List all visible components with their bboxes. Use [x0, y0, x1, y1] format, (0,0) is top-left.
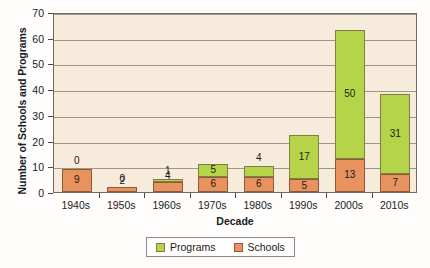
bar-2010s[interactable]: 317: [380, 94, 410, 192]
bar-1950s[interactable]: 02: [107, 187, 137, 192]
bar-label-schools: 9: [74, 175, 80, 185]
y-tick-label: 10: [0, 161, 44, 173]
bar-label-programs: 31: [390, 129, 401, 139]
chart-figure: Number of Schools and Programs 010203040…: [0, 0, 430, 268]
x-axis-title: Decade: [53, 215, 417, 227]
bar-label-programs: 5: [210, 165, 216, 175]
plot-area: 09021456461755013317: [53, 13, 417, 193]
x-tick-mark: [99, 193, 100, 198]
legend-label-schools: Schools: [248, 241, 285, 253]
bar-segment-programs[interactable]: 17: [289, 135, 319, 179]
y-tick-label: 40: [0, 84, 44, 96]
bar-segment-schools[interactable]: 7: [380, 174, 410, 192]
legend-item-schools[interactable]: Schools: [234, 241, 285, 253]
bar-segment-schools[interactable]: 9: [62, 169, 92, 192]
bar-label-schools: 6: [256, 179, 262, 189]
y-tick-label: 20: [0, 136, 44, 148]
bar-label-schools: 13: [344, 170, 355, 180]
bar-label-schools: 6: [210, 179, 216, 189]
bar-segment-programs[interactable]: 31: [380, 94, 410, 174]
schools-swatch-icon: [234, 243, 243, 252]
chart-legend: Programs Schools: [146, 237, 295, 257]
legend-label-programs: Programs: [170, 241, 216, 253]
bar-1960s[interactable]: 14: [153, 179, 183, 192]
x-tick-mark: [235, 193, 236, 198]
x-tick-label-2010s: 2010s: [367, 199, 421, 211]
y-tick-mark: [48, 193, 53, 194]
bar-1970s[interactable]: 56: [198, 164, 228, 192]
x-tick-mark: [190, 193, 191, 198]
x-tick-mark: [372, 193, 373, 198]
bar-label-programs: 50: [344, 89, 355, 99]
bar-1990s[interactable]: 175: [289, 135, 319, 192]
bar-segment-schools[interactable]: 6: [244, 177, 274, 192]
y-tick-label: 50: [0, 58, 44, 70]
bar-label-programs: 4: [244, 153, 274, 163]
x-tick-mark: [144, 193, 145, 198]
bar-segment-schools[interactable]: 13: [335, 159, 365, 192]
y-tick-label: 0: [0, 187, 44, 199]
bar-label-schools: 7: [392, 178, 398, 188]
bar-1940s[interactable]: 09: [62, 169, 92, 192]
legend-item-programs[interactable]: Programs: [156, 241, 216, 253]
bar-label-schools: 2: [107, 176, 137, 186]
bar-label-schools: 4: [153, 171, 183, 181]
bar-label-programs: 0: [62, 156, 92, 166]
bar-segment-programs[interactable]: [244, 166, 274, 176]
programs-swatch-icon: [156, 243, 165, 252]
bar-segment-schools[interactable]: [153, 182, 183, 192]
bar-label-schools: 5: [301, 181, 307, 191]
y-tick-label: 60: [0, 33, 44, 45]
y-tick-label: 30: [0, 110, 44, 122]
bar-segment-schools[interactable]: 5: [289, 179, 319, 192]
gridline: [54, 14, 416, 15]
bar-segment-programs[interactable]: 5: [198, 164, 228, 177]
bar-1980s[interactable]: 46: [244, 166, 274, 192]
y-tick-label: 70: [0, 7, 44, 19]
bar-2000s[interactable]: 5013: [335, 30, 365, 192]
x-tick-mark: [326, 193, 327, 198]
bar-segment-programs[interactable]: 50: [335, 30, 365, 159]
x-tick-mark: [281, 193, 282, 198]
bar-label-programs: 17: [299, 152, 310, 162]
bar-segment-schools[interactable]: [107, 187, 137, 192]
bar-segment-schools[interactable]: 6: [198, 177, 228, 192]
